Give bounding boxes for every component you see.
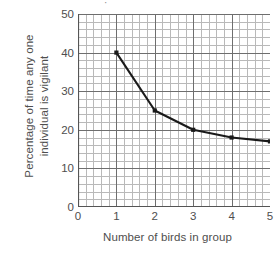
x-tick-label: 3 <box>181 210 205 222</box>
plot-area <box>78 14 270 207</box>
x-tick-label: 5 <box>258 210 278 222</box>
chart-canvas <box>78 14 270 207</box>
x-axis-title: Number of birds in group <box>60 231 275 243</box>
data-point-markers <box>114 51 270 144</box>
axis-lines <box>78 14 270 207</box>
y-tick-label: 50 <box>52 8 74 20</box>
major-gridlines <box>78 14 270 207</box>
y-tick-label: 40 <box>52 47 74 59</box>
y-tick-label: 20 <box>52 124 74 136</box>
x-axis-tick-labels: 012345 <box>0 210 278 228</box>
x-tick-label: 0 <box>66 210 90 222</box>
axis-tick-marks <box>78 15 270 208</box>
clipped-glyph-artifact: · <box>104 0 113 5</box>
minor-gridlines <box>78 14 270 207</box>
y-tick-label: 30 <box>52 85 74 97</box>
chart-figure: · Percentage of time any one individual … <box>0 0 278 254</box>
y-tick-label: 10 <box>52 162 74 174</box>
x-tick-label: 1 <box>104 210 128 222</box>
y-axis-title-line1: Percentage of time any one <box>23 34 35 177</box>
x-tick-label: 2 <box>143 210 167 222</box>
x-tick-label: 4 <box>220 210 244 222</box>
